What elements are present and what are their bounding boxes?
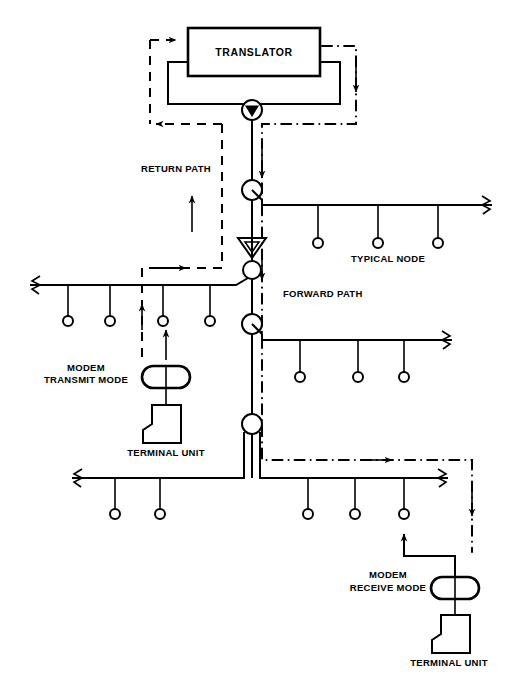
tap-3-2 (105, 316, 115, 326)
translator-label: TRANSLATOR (215, 46, 292, 58)
tap-2-3 (399, 372, 409, 382)
modem-receive-label-line2: RECEIVE MODE (350, 582, 426, 593)
tap-3-4 (205, 316, 215, 326)
modem-transmit-label-line1: MODEM (67, 362, 105, 373)
modem-transmit-label-line2: TRANSMIT MODE (44, 374, 128, 385)
tap-3-1 (63, 316, 73, 326)
trunk-line-5-east (260, 432, 448, 478)
terminal-unit-right-label: TERMINAL UNIT (410, 657, 488, 668)
terminal-unit-right-symbol (432, 615, 470, 653)
tap-4-1 (110, 509, 120, 519)
broadband-cable-network-diagram: TRANSLATOR RETURN PATH FORWARD PATH TYPI… (0, 0, 518, 688)
tap-5-2 (350, 509, 360, 519)
trunk-amplifier-4-symbol (242, 414, 262, 434)
tap-2-1 (295, 372, 305, 382)
tap-1-1 (313, 238, 323, 248)
forward-path-label: FORWARD PATH (283, 288, 363, 299)
diagram-canvas: TRANSLATOR RETURN PATH FORWARD PATH TYPI… (0, 0, 518, 688)
tap-2-2 (353, 372, 363, 382)
typical-node-label: TYPICAL NODE (351, 253, 425, 264)
modem-receive-downlink-line (404, 534, 455, 577)
tap-1-2 (373, 238, 383, 248)
return-path-label: RETURN PATH (141, 163, 211, 174)
modem-receive-label-line1: MODEM (369, 569, 407, 580)
bridger-amplifier-output-symbol (243, 261, 261, 279)
tap-5-1 (303, 509, 313, 519)
tap-1-3 (433, 238, 443, 248)
tap-5-3 (399, 509, 409, 519)
tap-4-2 (155, 509, 165, 519)
bridger-amplifier-west-leg (30, 278, 248, 285)
terminal-unit-left-symbol (143, 405, 181, 443)
tap-3-3 (158, 316, 168, 326)
terminal-unit-left-label: TERMINAL UNIT (127, 447, 205, 458)
